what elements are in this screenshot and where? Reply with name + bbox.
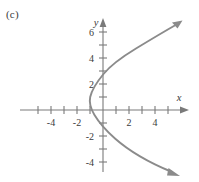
x-tick-label-pos4: 4	[153, 117, 158, 128]
y-tick-label-neg4: -4	[86, 157, 94, 168]
y-tick-label-neg2: -2	[86, 131, 94, 142]
curve-arrowhead-lower-right	[167, 168, 180, 176]
coordinate-plot: -4 -2 2 4 6 4 2 -2 -4 x y	[0, 0, 199, 182]
x-tick-label-neg2: -2	[73, 117, 81, 128]
x-tick-label-pos2: 2	[127, 117, 132, 128]
x-axis-label: x	[176, 92, 182, 103]
x-tick-label-neg4: -4	[47, 117, 55, 128]
x-axis-arrowhead	[180, 107, 189, 114]
y-axis-arrowhead	[100, 18, 107, 27]
y-axis-label: y	[93, 17, 99, 28]
y-tick-label-pos4: 4	[89, 53, 94, 64]
curve-arrowhead-upper-right	[172, 21, 183, 29]
y-tick-label-pos6: 6	[89, 27, 94, 38]
figure-panel: (c)	[0, 0, 199, 182]
